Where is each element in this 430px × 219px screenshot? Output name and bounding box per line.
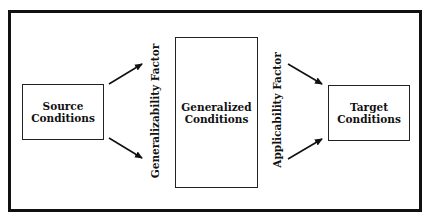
arrows-layer: [0, 0, 430, 219]
arrow-source-up-icon: [109, 64, 142, 84]
arrow-target-down-icon: [288, 64, 322, 84]
arrow-target-up-icon: [288, 139, 322, 159]
arrow-source-down-icon: [109, 138, 142, 158]
